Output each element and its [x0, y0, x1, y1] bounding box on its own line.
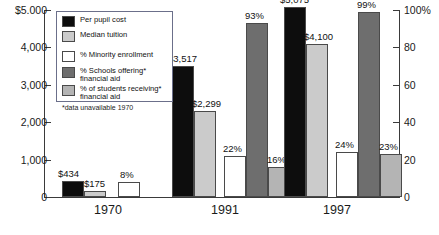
bar-1991-minority-enrollment[interactable]: [224, 156, 246, 197]
legend-swatch-median-tuition: [62, 31, 75, 42]
bar-label-1997-median-tuition: $4,100: [304, 32, 333, 42]
bar-label-1991-median-tuition: $2,299: [192, 99, 221, 109]
legend-label-schools-offering-aid: % Schools offering* financial aid: [80, 67, 146, 84]
bar-label-1997-minority-enrollment: 24%: [335, 140, 354, 150]
bar-label-1997-per-pupil-cost: $5,075: [280, 0, 309, 5]
y-axis-left-label-5000: $5.000: [15, 5, 47, 15]
legend-swatch-students-receiving-aid: [62, 85, 75, 96]
legend-swatch-per-pupil-cost: [62, 16, 75, 27]
y-axis-right-label-40: 40: [404, 117, 416, 127]
y-axis-right-label-80: 80: [404, 42, 416, 52]
legend-footnote: *data unavailable 1970: [62, 104, 133, 112]
bar-1970-median-tuition[interactable]: [84, 191, 106, 198]
legend-item-minority-enrollment[interactable]: % Minority enrollment: [62, 51, 153, 62]
legend: Per pupil cost Median tuition % Minority…: [56, 11, 173, 102]
bar-1997-schools-offering-aid[interactable]: [358, 12, 380, 197]
x-axis-label-1970: 1970: [62, 203, 154, 217]
legend-swatch-schools-offering-aid: [62, 67, 75, 78]
bar-1991-median-tuition[interactable]: [194, 111, 216, 197]
bar-1970-per-pupil-cost[interactable]: [62, 181, 84, 197]
y-axis-right-label-60: 60: [404, 80, 416, 90]
legend-label-median-tuition: Median tuition: [80, 31, 127, 39]
bar-1997-students-receiving-aid[interactable]: [380, 154, 402, 197]
bar-label-1991-schools-offering-aid: 93%: [245, 11, 264, 21]
bar-1991-per-pupil-cost[interactable]: [172, 66, 194, 198]
bar-label-1997-students-receiving-aid: 23%: [379, 142, 398, 152]
legend-label-per-pupil-cost: Per pupil cost: [80, 16, 126, 24]
legend-item-per-pupil-cost[interactable]: Per pupil cost: [62, 16, 126, 27]
bar-1997-per-pupil-cost[interactable]: [284, 7, 306, 197]
x-axis-label-1997: 1997: [284, 203, 390, 217]
bar-label-1970-per-pupil-cost: $434: [58, 169, 79, 179]
legend-label-minority-enrollment: % Minority enrollment: [80, 51, 153, 59]
bar-1991-schools-offering-aid[interactable]: [246, 23, 268, 197]
bar-chart: $5.000 4,000 3,000 2,000 1,000 0 100% 80…: [0, 0, 439, 235]
legend-swatch-minority-enrollment: [62, 51, 75, 62]
bar-label-1991-minority-enrollment: 22%: [223, 144, 242, 154]
legend-item-median-tuition[interactable]: Median tuition: [62, 31, 127, 42]
bar-1997-median-tuition[interactable]: [306, 44, 328, 197]
bar-label-1970-median-tuition: $175: [84, 179, 105, 189]
bar-label-1997-schools-offering-aid: 99%: [357, 0, 376, 10]
y-axis-right-label-20: 20: [404, 155, 416, 165]
legend-item-schools-offering-aid[interactable]: % Schools offering* financial aid: [62, 67, 146, 84]
bar-1997-minority-enrollment[interactable]: [336, 152, 358, 197]
y-axis-right-label-100: 100%: [404, 5, 431, 15]
legend-item-students-receiving-aid[interactable]: % of students receiving* financial aid: [62, 85, 161, 102]
bar-label-1970-minority-enrollment: 8%: [120, 170, 134, 180]
x-axis-label-1991: 1991: [172, 203, 278, 217]
y-axis-right-label-0: 0: [404, 192, 410, 202]
bar-group-1997: $5,075 $4,100 24% 99% 23%: [284, 10, 390, 197]
y-axis-right-tick-0: [393, 197, 400, 198]
x-axis-line: [44, 197, 400, 198]
legend-label-students-receiving-aid: % of students receiving* financial aid: [80, 85, 161, 102]
bar-1970-minority-enrollment[interactable]: [118, 182, 140, 197]
bar-group-1991: $3,517 $2,299 22% 93% 16%: [172, 10, 278, 197]
